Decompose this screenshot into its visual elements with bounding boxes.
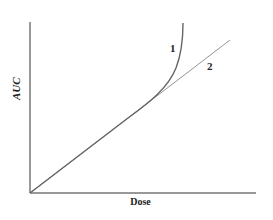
series-1-label: 1 xyxy=(170,42,176,54)
series-2-label: 2 xyxy=(207,60,213,72)
series-1-curve xyxy=(30,23,183,193)
y-axis-label: AUC xyxy=(10,77,22,100)
chart-plot: 1 2 xyxy=(0,0,273,220)
x-axis-label: Dose xyxy=(0,196,273,207)
